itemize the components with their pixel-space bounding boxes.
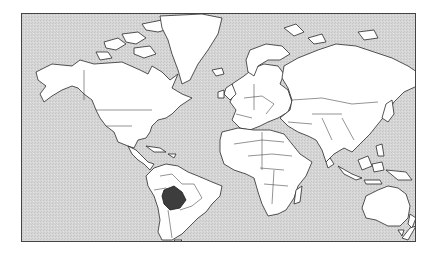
falklands	[174, 240, 182, 242]
world-map	[21, 13, 416, 242]
map-canvas	[22, 14, 416, 242]
